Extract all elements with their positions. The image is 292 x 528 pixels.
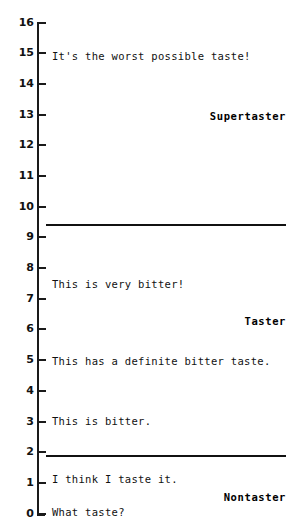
y-axis-tick-label: 7 [8, 293, 34, 304]
y-axis-tick [39, 83, 46, 85]
y-axis-tick [39, 22, 46, 24]
descriptor-think-i-taste-it: I think I taste it. [52, 473, 178, 485]
y-axis-tick-label: 3 [8, 416, 34, 427]
y-axis-tick-label: 6 [8, 323, 34, 334]
y-axis-tick-label: 15 [8, 47, 34, 58]
y-axis-tick [39, 390, 46, 392]
group-label-taster: Taster [244, 315, 286, 327]
y-axis-tick [39, 267, 46, 269]
y-axis-tick [39, 328, 46, 330]
y-axis-tick [39, 175, 46, 177]
y-axis-tick [39, 144, 46, 146]
y-axis-tick [39, 513, 46, 515]
descriptor-definite-bitter: This has a definite bitter taste. [52, 355, 271, 367]
descriptor-worst-possible-taste: It's the worst possible taste! [52, 50, 251, 62]
y-axis-spine [37, 22, 39, 516]
y-axis-tick [39, 114, 46, 116]
descriptor-what-taste: What taste? [52, 506, 125, 518]
supertaster-taster-divider [46, 224, 286, 226]
y-axis-tick-label: 16 [8, 17, 34, 28]
y-axis-tick-label: 2 [8, 446, 34, 457]
descriptor-bitter: This is bitter. [52, 415, 151, 427]
y-axis-tick [39, 52, 46, 54]
y-axis-tick-label: 9 [8, 231, 34, 242]
y-axis-tick-label: 11 [8, 170, 34, 181]
y-axis-tick-label: 0 [8, 508, 34, 519]
y-axis-tick [39, 359, 46, 361]
y-axis-tick-label: 13 [8, 109, 34, 120]
y-axis-tick [39, 298, 46, 300]
y-axis-tick-label: 4 [8, 385, 34, 396]
y-axis-tick-label: 5 [8, 354, 34, 365]
group-label-nontaster: Nontaster [224, 491, 286, 503]
y-axis-tick-label: 10 [8, 201, 34, 212]
y-axis-tick [39, 236, 46, 238]
y-axis-tick [39, 206, 46, 208]
y-axis-tick [39, 421, 46, 423]
descriptor-very-bitter: This is very bitter! [52, 278, 184, 290]
y-axis-tick-label: 8 [8, 262, 34, 273]
y-axis-tick-label: 1 [8, 477, 34, 488]
y-axis-tick [39, 482, 46, 484]
group-label-supertaster: Supertaster [210, 110, 286, 122]
y-axis-tick-label: 12 [8, 139, 34, 150]
taste-scale-chart: 161514131211109876543210 It's the worst … [0, 0, 292, 528]
taster-nontaster-divider [46, 455, 286, 457]
y-axis-tick [39, 451, 46, 453]
y-axis-tick-label: 14 [8, 78, 34, 89]
